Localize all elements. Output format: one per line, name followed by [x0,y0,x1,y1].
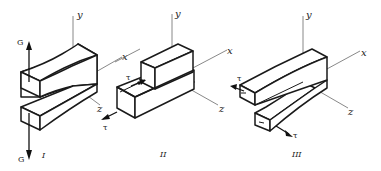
arrow-head-up-icon [26,41,32,50]
panel-mode-III: y x z τ τ III [230,9,367,159]
y-axis-label: y [76,9,83,20]
load-label-top: G [17,38,23,47]
arrow-head-lower-icon [285,130,293,137]
x-axis-label: x [361,47,367,58]
y-axis-label: y [305,9,312,20]
load-label-bottom: τ [293,131,298,140]
fracture-modes-diagram: y x z G G I y x z [0,0,381,171]
z-axis-label: z [96,103,103,114]
panel-caption: II [159,150,167,159]
z-axis-label: z [347,106,354,117]
load-label-bottom: τ [103,123,108,132]
panel-mode-II: y x z τ τ II [101,8,233,159]
panel-mode-I: y x z G G I [17,9,128,164]
arrow-head-upper-icon [230,84,237,90]
arrow-head-down-icon [26,150,32,160]
x-axis-label: x [227,45,233,56]
panel-caption: III [291,150,302,159]
arrow-tail-dot [137,81,141,85]
panel-caption: I [41,151,46,160]
load-label-top: τ [237,74,242,83]
load-label-top: τ [126,73,131,82]
load-label-bottom: G [18,155,24,164]
z-axis-label: z [218,103,225,114]
arrow-head-lower-icon [101,114,110,120]
y-axis-label: y [174,8,181,19]
